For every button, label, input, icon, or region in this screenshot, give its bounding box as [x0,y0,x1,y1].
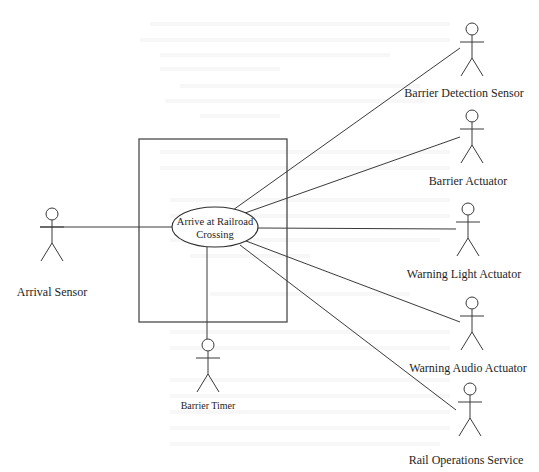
use-case-diagram [0,0,539,472]
actor-rail-operations-service [458,383,482,436]
actor-left-leg [461,145,472,163]
actor-label-warning-audio-actuator: Warning Audio Actuator [409,362,527,374]
actor-right-leg [208,374,219,392]
actor-head-icon [46,208,58,220]
actor-left-leg [197,374,208,392]
actor-label-barrier-actuator: Barrier Actuator [429,175,507,187]
actor-right-leg [472,145,483,163]
actor-barrier-actuator [460,110,484,163]
actor-head-icon [466,110,478,122]
use-case-label: Arrive at Railroad Crossing [170,215,260,241]
actor-head-icon [466,23,478,35]
actor-head-icon [202,339,214,351]
actor-label-barrier-detection-sensor: Barrier Detection Sensor [404,87,523,99]
actor-right-leg [472,58,483,76]
actor-label-arrival-sensor: Arrival Sensor [17,286,87,298]
actor-warning-audio-actuator [460,297,484,350]
use-case-label-line1: Arrive at Railroad [170,215,260,228]
actor-head-icon [466,297,478,309]
actor-left-leg [459,418,470,436]
actor-left-leg [461,58,472,76]
use-case-label-line2: Crossing [170,228,260,241]
actor-arrival-sensor [40,208,64,261]
actor-right-leg [470,418,481,436]
actor-right-leg [472,332,483,350]
actor-head-icon [464,383,476,395]
actor-label-rail-operations-service: Rail Operations Service [409,454,524,466]
actor-left-leg [457,238,468,256]
association-barrier-detection-sensor [233,48,460,210]
actor-label-barrier-timer: Barrier Timer [181,401,236,411]
actor-barrier-detection-sensor [460,23,484,76]
association-warning-light-actuator [258,228,456,229]
association-warning-audio-actuator [246,241,460,322]
actor-head-icon [462,203,474,215]
actor-left-leg [461,332,472,350]
actor-warning-light-actuator [456,203,480,256]
actor-right-leg [468,238,479,256]
actor-label-warning-light-actuator: Warning Light Actuator [407,268,521,280]
actor-right-leg [52,243,63,261]
actor-left-leg [41,243,52,261]
